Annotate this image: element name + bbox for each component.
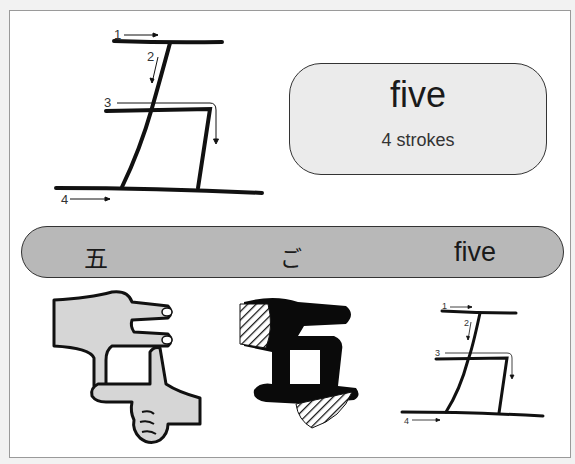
english-meaning: five [454, 237, 496, 268]
meaning-title: five [290, 74, 546, 116]
stroke-order-diagram-large: 1 2 3 4 [0, 0, 290, 220]
kana-reading: ご [280, 240, 302, 272]
character-silhouette-icon [238, 296, 368, 431]
stroke-order-diagram-small: 1 2 3 4 [390, 290, 575, 440]
meaning-box: five 4 strokes [289, 63, 547, 175]
kanji-character: 五 [84, 239, 108, 274]
stroke-count: 4 strokes [290, 130, 546, 151]
stroke-number-4: 4 [61, 192, 68, 207]
hands-mnemonic-icon [50, 288, 210, 448]
stroke-number-2-small: 2 [464, 318, 469, 328]
reading-band: 五 ご five [21, 226, 564, 278]
stroke-number-4-small: 4 [404, 416, 409, 426]
stroke-number-2: 2 [147, 49, 154, 64]
stroke-number-3-small: 3 [435, 348, 440, 358]
stroke-number-1-small: 1 [442, 301, 447, 311]
stroke-number-1: 1 [114, 27, 121, 42]
stroke-number-3: 3 [104, 95, 111, 110]
